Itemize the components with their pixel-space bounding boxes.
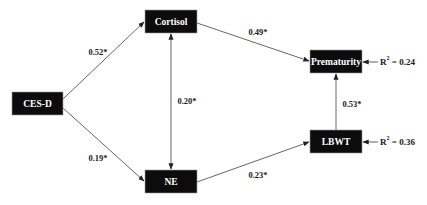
node-cesd: CES-D xyxy=(12,92,63,115)
node-cortisol-label: Cortisol xyxy=(155,17,188,27)
coef-cortisol-ne: 0.20* xyxy=(177,96,196,106)
r2-lbwt: R2 = 0.36 xyxy=(380,135,415,147)
r2-prematurity: R2 = 0.24 xyxy=(380,55,415,67)
coef-cesd-ne: 0.19* xyxy=(88,153,107,163)
edge-cesd-to-ne xyxy=(63,108,144,181)
coef-cesd-cortisol: 0.52* xyxy=(88,47,107,57)
node-prematurity: Prematurity xyxy=(310,50,362,73)
path-diagram: CES-D Cortisol NE Prematurity LBWT 0.52*… xyxy=(0,0,427,205)
node-lbwt-label: LBWT xyxy=(322,137,351,147)
coef-cortisol-prematurity: 0.49* xyxy=(248,27,267,37)
node-ne-label: NE xyxy=(164,177,177,187)
coef-ne-lbwt: 0.23* xyxy=(248,170,267,180)
node-cesd-label: CES-D xyxy=(23,99,52,109)
coef-lbwt-prematurity: 0.53* xyxy=(342,99,361,109)
node-ne: NE xyxy=(145,170,197,193)
node-lbwt: LBWT xyxy=(310,130,362,153)
edge-cesd-to-cortisol xyxy=(63,22,144,99)
node-cortisol: Cortisol xyxy=(145,10,197,33)
node-prematurity-label: Prematurity xyxy=(311,57,361,67)
